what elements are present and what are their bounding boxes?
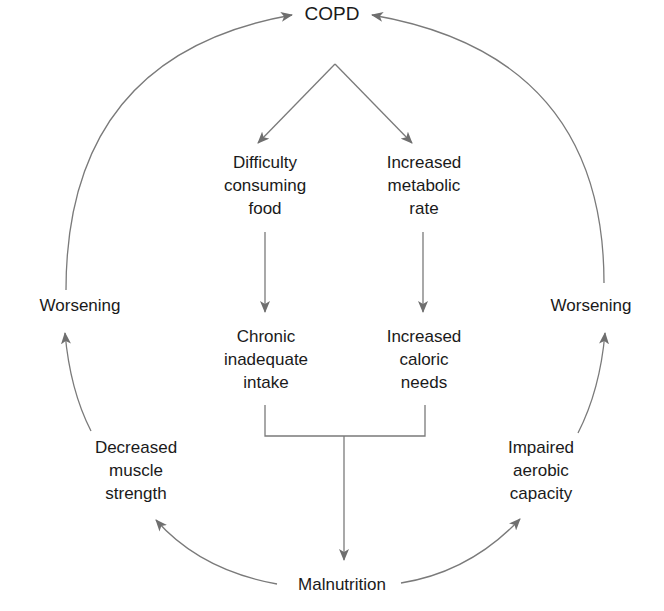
arrow-worsening-right-to-copd [372,15,604,283]
node-copd: COPD [305,2,360,26]
node-line: Increased [387,325,462,348]
node-decreased-muscle-strength: Decreased muscle strength [95,436,177,505]
node-line: rate [387,197,462,220]
node-increased-caloric-needs: Increased caloric needs [387,325,462,394]
node-line: Chronic [224,325,308,348]
node-worsening-left: Worsening [40,294,121,317]
arrow-malnutrition-to-aerobic [401,519,520,583]
arrow-copd-to-difficulty [258,64,335,143]
node-line: inadequate [224,348,308,371]
node-line: Difficulty [224,151,306,174]
bracket-merge [265,405,425,436]
node-line: muscle [95,459,177,482]
node-line: intake [224,371,308,394]
node-worsening-right: Worsening [551,294,632,317]
node-difficulty-consuming-food: Difficulty consuming food [224,151,306,220]
node-line: capacity [508,482,574,505]
node-line: food [224,197,306,220]
node-line: needs [387,371,462,394]
node-line: aerobic [508,459,574,482]
node-line: Impaired [508,436,574,459]
node-line: Decreased [95,436,177,459]
node-line: Worsening [40,294,121,317]
node-line: Increased [387,151,462,174]
node-line: consuming [224,174,306,197]
node-impaired-aerobic-capacity: Impaired aerobic capacity [508,436,574,505]
arrow-copd-to-metabolic [335,64,412,143]
node-malnutrition: Malnutrition [298,573,386,596]
node-copd-label: COPD [305,2,360,26]
node-line: Malnutrition [298,573,386,596]
node-line: metabolic [387,174,462,197]
node-line: Worsening [551,294,632,317]
arrow-malnutrition-to-muscle [156,520,277,584]
node-line: caloric [387,348,462,371]
arrow-muscle-to-worsening-left [65,333,91,431]
node-line: strength [95,482,177,505]
node-increased-metabolic-rate: Increased metabolic rate [387,151,462,220]
node-chronic-inadequate-intake: Chronic inadequate intake [224,325,308,394]
arrow-aerobic-to-worsening-right [578,333,605,433]
